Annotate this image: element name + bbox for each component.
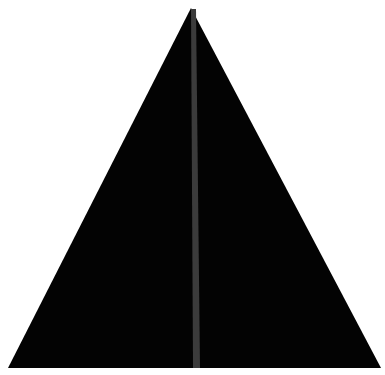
triangle-graphic — [0, 0, 385, 375]
canvas — [0, 0, 385, 375]
